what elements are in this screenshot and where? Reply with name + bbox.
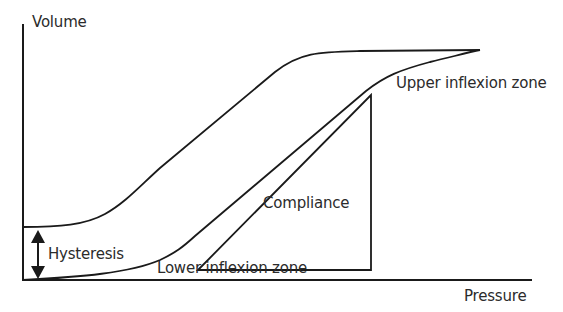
x-axis-label: Pressure bbox=[464, 289, 526, 304]
compliance-triangle bbox=[198, 95, 371, 270]
hysteresis-label: Hysteresis bbox=[48, 247, 124, 262]
y-axis-label: Volume bbox=[32, 15, 87, 30]
compliance-label: Compliance bbox=[263, 196, 349, 211]
upper-inflexion-label: Upper inflexion zone bbox=[396, 76, 547, 91]
lower-inflexion-label: Lower inflexion zone bbox=[157, 261, 307, 276]
hysteresis-arrow bbox=[31, 230, 45, 279]
